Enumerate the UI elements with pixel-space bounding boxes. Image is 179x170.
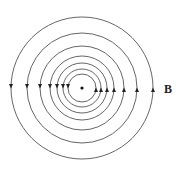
wire-dot-icon bbox=[80, 86, 83, 89]
arrow-down-icon bbox=[9, 84, 13, 89]
arrow-up-icon bbox=[94, 88, 98, 93]
arrow-up-icon bbox=[105, 88, 109, 93]
arrow-up-icon bbox=[122, 88, 126, 93]
field-lines-diagram bbox=[0, 0, 179, 170]
arrow-up-icon bbox=[112, 88, 116, 93]
arrow-up-icon bbox=[151, 88, 155, 93]
arrow-down-icon bbox=[61, 84, 65, 89]
arrow-up-icon bbox=[99, 88, 103, 93]
arrow-down-icon bbox=[25, 84, 29, 89]
field-label-b: B bbox=[164, 83, 172, 95]
arrow-up-icon bbox=[135, 88, 139, 93]
arrow-down-icon bbox=[48, 84, 52, 89]
arrow-down-icon bbox=[66, 84, 70, 89]
arrow-down-icon bbox=[55, 84, 59, 89]
arrow-down-icon bbox=[38, 84, 42, 89]
